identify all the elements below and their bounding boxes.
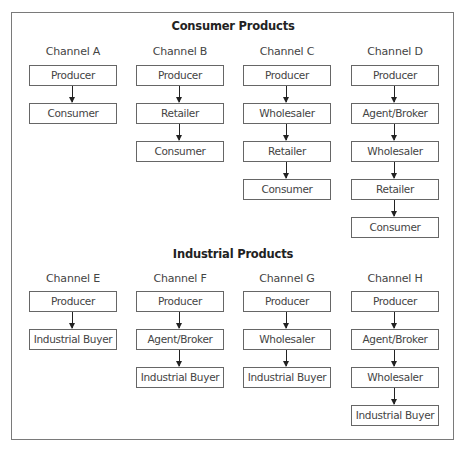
channel-step-box: Retailer <box>351 179 439 200</box>
down-arrow-icon <box>179 124 180 140</box>
channel-step-box: Consumer <box>29 103 117 124</box>
down-arrow-icon <box>394 388 395 404</box>
down-arrow-icon <box>394 86 395 102</box>
channel-step-box: Wholesaler <box>351 141 439 162</box>
channel-step-box: Producer <box>29 65 117 86</box>
channel-step-box: Agent/Broker <box>136 329 224 350</box>
channel-step-box: Industrial Buyer <box>29 329 117 350</box>
down-arrow-icon <box>394 312 395 328</box>
down-arrow-icon <box>394 162 395 178</box>
channel-step-box: Industrial Buyer <box>351 405 439 426</box>
down-arrow-icon <box>394 200 395 216</box>
channel-step-box: Industrial Buyer <box>243 367 331 388</box>
channel-step-box: Agent/Broker <box>351 103 439 124</box>
down-arrow-icon <box>286 86 287 102</box>
channel-label: Channel B <box>126 45 234 58</box>
channel-step-box: Agent/Broker <box>351 329 439 350</box>
channel-label: Channel A <box>19 45 127 58</box>
down-arrow-icon <box>72 312 73 328</box>
down-arrow-icon <box>179 350 180 366</box>
channel-step-box: Producer <box>136 65 224 86</box>
down-arrow-icon <box>286 312 287 328</box>
section-title: Industrial Products <box>0 247 466 261</box>
channel-label: Channel F <box>126 272 234 285</box>
channel-step-box: Consumer <box>243 179 331 200</box>
down-arrow-icon <box>72 86 73 102</box>
channel-step-box: Retailer <box>136 103 224 124</box>
channel-step-box: Producer <box>29 291 117 312</box>
channel-step-box: Industrial Buyer <box>136 367 224 388</box>
section-title: Consumer Products <box>0 19 466 33</box>
channel-label: Channel H <box>341 272 449 285</box>
channel-step-box: Producer <box>243 65 331 86</box>
channel-step-box: Producer <box>351 65 439 86</box>
channel-step-box: Wholesaler <box>243 103 331 124</box>
channel-step-box: Consumer <box>351 217 439 238</box>
down-arrow-icon <box>286 350 287 366</box>
channel-step-box: Wholesaler <box>351 367 439 388</box>
channel-step-box: Producer <box>243 291 331 312</box>
channel-label: Channel G <box>233 272 341 285</box>
channel-label: Channel D <box>341 45 449 58</box>
down-arrow-icon <box>394 350 395 366</box>
channel-step-box: Producer <box>351 291 439 312</box>
down-arrow-icon <box>179 312 180 328</box>
channel-step-box: Retailer <box>243 141 331 162</box>
down-arrow-icon <box>286 162 287 178</box>
down-arrow-icon <box>394 124 395 140</box>
channel-label: Channel C <box>233 45 341 58</box>
down-arrow-icon <box>286 124 287 140</box>
channel-label: Channel E <box>19 272 127 285</box>
channel-step-box: Consumer <box>136 141 224 162</box>
down-arrow-icon <box>179 86 180 102</box>
channel-step-box: Producer <box>136 291 224 312</box>
channel-step-box: Wholesaler <box>243 329 331 350</box>
